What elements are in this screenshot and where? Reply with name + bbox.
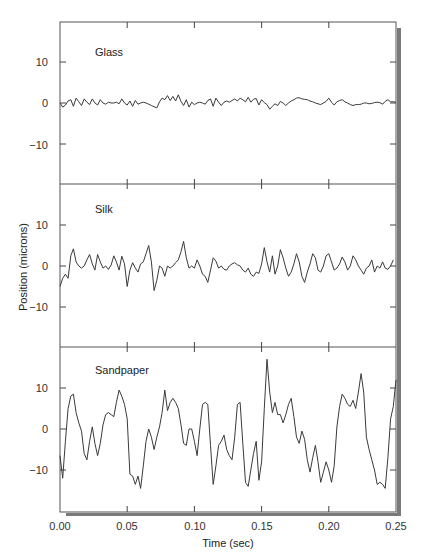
- x-tick-label-0.15: 0.15: [251, 520, 272, 532]
- frame-shadow-bottom: [66, 513, 401, 516]
- x-tick-label-0.20: 0.20: [318, 520, 339, 532]
- y-axis-title: Position (microns): [17, 223, 29, 311]
- x-tick-label-0.25: 0.25: [385, 520, 406, 532]
- position-vs-time-figure: Glass Silk Sandpaper 10 0 −10 10 0 −10 1…: [0, 0, 425, 560]
- y-tick-label-glass-neg10: −10: [29, 139, 48, 151]
- x-tick-label-0.00: 0.00: [49, 520, 70, 532]
- y-tick-label-silk-neg10: −10: [29, 301, 48, 313]
- panel-label-silk: Silk: [95, 203, 113, 215]
- y-tick-label-glass-0: 0: [42, 97, 48, 109]
- y-tick-label-glass-10: 10: [36, 56, 48, 68]
- trace-glass: [60, 95, 396, 109]
- y-tick-label-sandpaper-neg10: −10: [29, 464, 48, 476]
- x-tick-label-0.10: 0.10: [184, 520, 205, 532]
- trace-sandpaper: [60, 359, 396, 488]
- panel-label-sandpaper: Sandpaper: [95, 364, 149, 376]
- trace-silk: [60, 241, 393, 290]
- panel-label-glass: Glass: [95, 46, 124, 58]
- x-axis-title: Time (sec): [202, 537, 254, 549]
- y-tick-label-sandpaper-10: 10: [36, 382, 48, 394]
- y-tick-label-silk-10: 10: [36, 219, 48, 231]
- y-tick-label-sandpaper-0: 0: [42, 423, 48, 435]
- x-tick-label-0.05: 0.05: [116, 520, 137, 532]
- frame-shadow-right: [397, 28, 401, 516]
- y-tick-label-silk-0: 0: [42, 260, 48, 272]
